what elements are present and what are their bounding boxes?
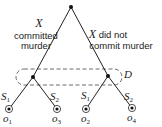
strategy-label-left-s1: S1	[1, 90, 11, 104]
outcome-label-o3: o3	[52, 112, 62, 126]
left-branch-text2: murder	[21, 40, 51, 51]
left-branch-var: X	[34, 16, 43, 30]
strategy-label-left-s2: S2	[50, 90, 60, 104]
strategy-label-right-s1: S1	[81, 89, 91, 103]
edge-left-s1	[9, 77, 33, 109]
right-branch-line1: X did not	[88, 27, 128, 41]
decision-node-left	[31, 75, 35, 79]
tree-edges	[9, 7, 132, 109]
root-node	[69, 5, 73, 9]
outcome-label-o1: o1	[3, 112, 13, 126]
right-branch-text2: commit murder	[89, 40, 152, 51]
terminal-nodes	[5, 104, 135, 112]
edge-right-s1	[86, 76, 108, 109]
outcome-label-o2: o2	[81, 112, 91, 126]
game-tree-diagram: X committed murder X did not commit murd…	[0, 0, 162, 127]
outcome-label-o4: o4	[127, 111, 137, 125]
decision-node-right	[106, 74, 110, 78]
information-set-label: D	[123, 68, 132, 80]
right-branch-text: did not	[96, 29, 128, 40]
strategy-label-right-s2: S2	[124, 90, 134, 104]
